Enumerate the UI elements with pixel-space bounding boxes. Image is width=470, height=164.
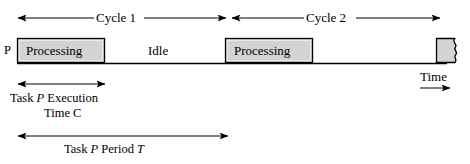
period-annotation-mid: Period — [98, 142, 137, 156]
time-axis-label: Time — [420, 70, 447, 83]
cycle-1-label: Cycle 1 — [96, 11, 136, 24]
execution-time-annotation: Task P Execution — [10, 92, 98, 105]
period-annotation-period-var: T — [137, 142, 144, 156]
processing-block-3-truncated — [437, 39, 457, 63]
execution-annotation-suffix: Execution — [44, 91, 98, 105]
processing-2-label: Processing — [234, 44, 290, 57]
execution-annotation-prefix: Task — [10, 91, 37, 105]
task-timing-diagram: Cycle 1 Cycle 2 P Processing Idle Proces… — [0, 0, 470, 164]
period-annotation: Task P Period T — [64, 143, 144, 156]
period-annotation-prefix: Task — [64, 142, 91, 156]
processing-1-label: Processing — [26, 44, 82, 57]
idle-1-label: Idle — [148, 44, 168, 57]
diagram-vector-layer — [0, 0, 470, 164]
cycle-2-label: Cycle 2 — [306, 11, 346, 24]
execution-time-annotation-line2: Time C — [44, 107, 81, 120]
process-label: P — [4, 44, 11, 57]
